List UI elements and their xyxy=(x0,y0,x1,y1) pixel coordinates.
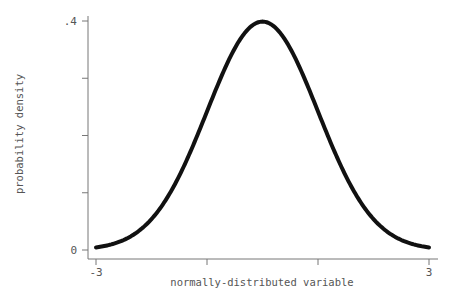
x-axis-title: normally-distributed variable xyxy=(170,276,353,288)
y-axis-title: probability density xyxy=(13,74,25,194)
x-tick-label: 3 xyxy=(426,266,433,279)
y-axis-ticks: 0.4 xyxy=(64,15,88,257)
y-tick-label: 0 xyxy=(70,244,77,257)
density-curve xyxy=(96,22,429,248)
y-tick-label: .4 xyxy=(64,15,78,28)
x-tick-label: -3 xyxy=(89,266,102,279)
normal-density-chart: 0.4 -33 normally-distributed variable pr… xyxy=(0,0,455,305)
y-axis: 0.4 xyxy=(64,15,88,259)
